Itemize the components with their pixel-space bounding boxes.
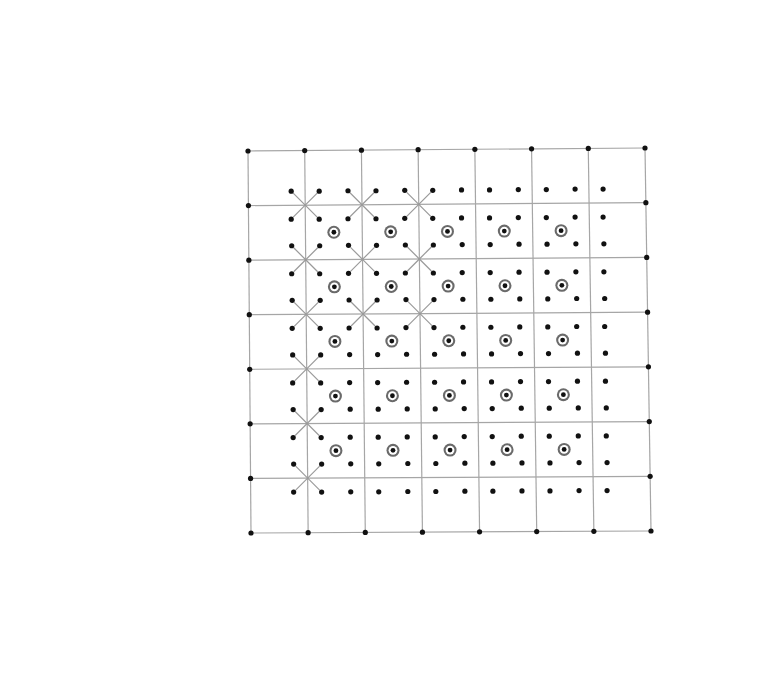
lattice-dot [516,270,521,275]
lattice-dot [546,379,551,384]
lattice-dot [431,297,436,302]
star-spoke [296,466,308,478]
lattice-dot [575,379,580,384]
lattice-dot [318,380,323,385]
lattice-dot [432,380,437,385]
lattice-dot [576,405,581,410]
lattice-dot [405,406,410,411]
lattice-dot [516,242,521,247]
target-marker [329,444,342,457]
target-core [504,393,509,398]
lattice-dot [547,460,552,465]
star-spoke [408,302,420,314]
lattice-dot [319,462,324,467]
lattice-dot [376,489,381,494]
star-spoke [295,412,307,424]
lattice-dot [490,434,495,439]
boundary-dot [646,364,651,369]
lattice-dot [348,407,353,412]
lattice-dot [488,297,493,302]
star-spoke [308,466,320,478]
lattice-dot [345,188,350,193]
target-marker [328,335,341,348]
lattice-dot [317,189,322,194]
lattice-dot [572,187,577,192]
target-core [559,228,564,233]
star-spoke [407,192,419,204]
lattice-dot [319,490,324,495]
target-marker [444,444,457,457]
star-spoke [295,369,307,381]
boundary-dot [472,147,477,152]
lattice-dot [461,351,466,356]
lattice-dot [545,296,550,301]
star-spoke [294,248,306,260]
lattice-dot [459,215,464,220]
star-spoke [407,204,419,216]
target-core [389,339,394,344]
boundary-dot [644,255,649,260]
lattice-dot [517,296,522,301]
grid-line-vertical [475,149,480,532]
lattice-dot [601,241,606,246]
boundary-dot [529,146,534,151]
target-core [389,284,394,289]
target-marker [499,334,512,347]
star-spoke [362,193,374,205]
lattice-dot [376,435,381,440]
lattice-dot [460,242,465,247]
star-spoke [363,247,375,259]
target-marker [387,444,400,457]
lattice-dot [433,489,438,494]
lattice-dot [291,462,296,467]
target-core [446,338,451,343]
star-spoke [419,204,431,216]
lattice-dot [431,242,436,247]
lattice-dot [431,270,436,275]
lattice-dot [374,297,379,302]
lattice-dot [547,488,552,493]
lattice-dot [573,241,578,246]
lattice-dot [460,270,465,275]
lattice-dot [601,269,606,274]
grid-line-horizontal [250,422,649,424]
lattice-dot [518,379,523,384]
target-core [505,447,510,452]
target-marker [384,225,397,238]
lattice-dot [431,325,436,330]
target-core [447,393,452,398]
star-spoke [294,302,306,314]
star-spoke [306,302,318,314]
target-marker [443,389,456,402]
lattice-dot [490,406,495,411]
star-spoke [419,192,431,204]
boundary-dot [246,258,251,263]
target-core [502,229,507,234]
lattice-dot [291,435,296,440]
boundary-dot [248,421,253,426]
lattice-dot [600,187,605,192]
lattice-dot [403,325,408,330]
lattice-dot [490,461,495,466]
lattice-dot [289,189,294,194]
boundary-dot [359,148,364,153]
lattice-dot [544,215,549,220]
star-spoke [307,412,319,424]
star-spoke [293,205,305,217]
boundary-dot [416,147,421,152]
lattice-dot [487,215,492,220]
target-core [334,448,339,453]
lattice-dot [376,407,381,412]
grid-line-vertical [645,148,651,531]
lattice-dot [403,297,408,302]
star-spoke [363,302,375,314]
lattice-dot [544,242,549,247]
lattice-dot [518,351,523,356]
target-marker [556,334,569,347]
star-spoke [420,302,432,314]
star-spoke [294,314,306,326]
lattice-dot [317,271,322,276]
lattice-dot [489,351,494,356]
lattice-dot [461,379,466,384]
lattice-dot [318,326,323,331]
